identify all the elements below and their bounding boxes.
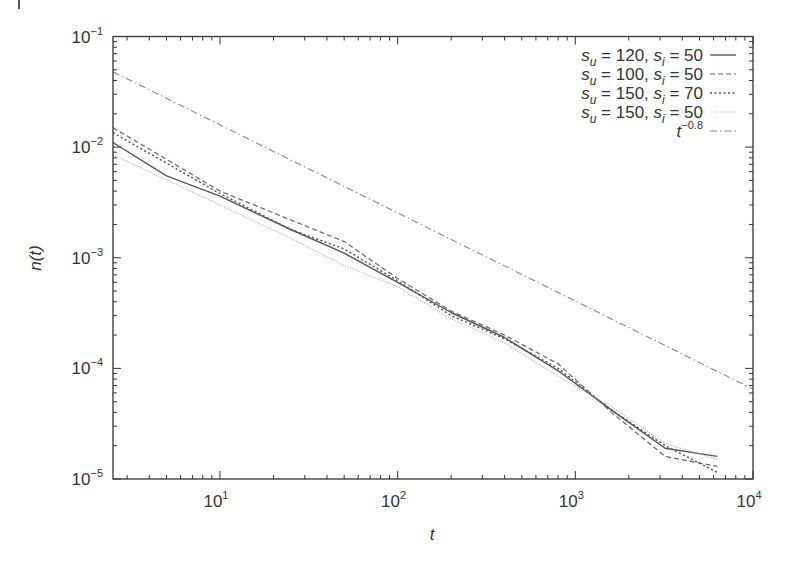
y-tick-label: 10−4 — [72, 356, 103, 378]
chart: 10110210310410−110−210−310−410−5 t n(t) … — [0, 0, 803, 567]
y-axis-label: n(t) — [26, 245, 45, 271]
y-tick-label: 10−5 — [72, 467, 103, 489]
series-line-0 — [113, 143, 717, 457]
legend-label-4: t−0.8 — [677, 119, 703, 141]
x-tick-label: 102 — [381, 489, 406, 511]
series-line-1 — [113, 128, 717, 467]
legend: su = 120, si = 50su = 100, si = 50su = 1… — [581, 46, 736, 141]
x-axis-label: t — [430, 525, 436, 544]
y-tick-label: 10−1 — [72, 25, 103, 47]
x-tick-label: 101 — [203, 489, 228, 511]
x-tick-label: 104 — [736, 489, 761, 511]
x-tick-label: 103 — [559, 489, 584, 511]
y-tick-label: 10−2 — [72, 135, 103, 157]
series-line-3 — [113, 155, 717, 460]
y-tick-label: 10−3 — [72, 246, 103, 268]
series-layer — [113, 72, 753, 473]
